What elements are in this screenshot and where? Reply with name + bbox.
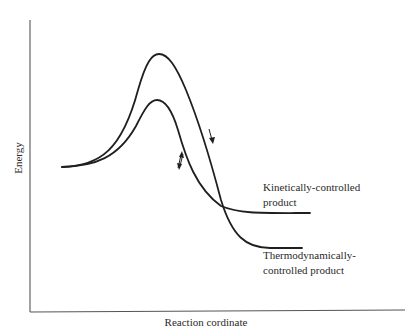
irreversible-arrow-icon: [209, 129, 215, 144]
x-axis-label: Reaction cordinate: [165, 316, 248, 328]
thermodynamic-product-label-line1: Thermodynamically-: [263, 249, 356, 261]
kinetic-product-label-line1: Kinetically-controlled: [263, 181, 361, 193]
equilibrium-arrows-icon: [177, 151, 184, 170]
y-axis-label: Energy: [12, 142, 24, 174]
thermodynamic-product-label-line2: controlled product: [263, 264, 344, 276]
kinetic-product-label-line2: product: [263, 196, 297, 208]
energy-diagram: Energy Reaction cordinate Kinetically-co…: [0, 0, 413, 334]
x-axis: [30, 310, 405, 312]
